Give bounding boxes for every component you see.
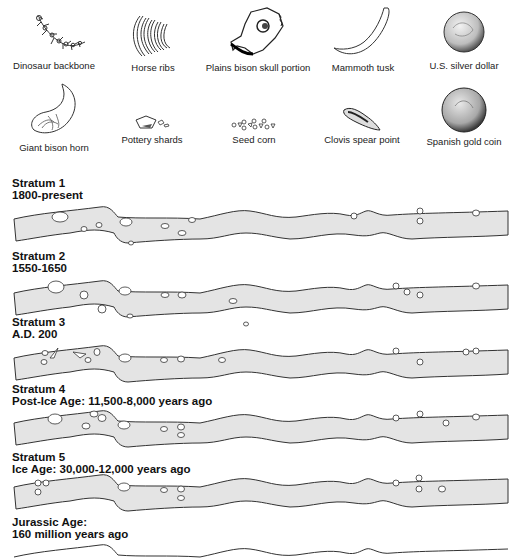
- stratum-2-band: [14, 281, 508, 326]
- stratum-5-band: [14, 475, 508, 511]
- jurassic-boundary-line: [14, 545, 508, 557]
- strata-diagram: [0, 0, 513, 559]
- stratum-3-band: [14, 346, 508, 382]
- stratum-4-band: [14, 411, 508, 447]
- stratum-1-band: [14, 207, 508, 245]
